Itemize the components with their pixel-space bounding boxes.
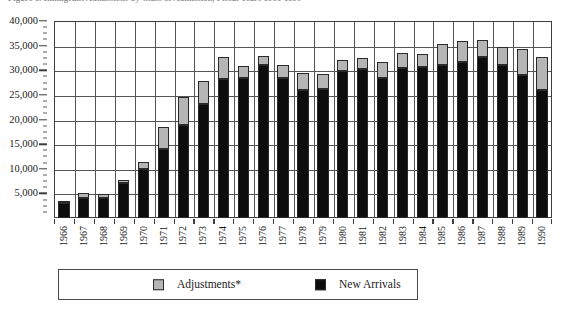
- gridline-vertical: [533, 22, 534, 217]
- x-axis-tick: [532, 219, 533, 224]
- x-axis-tick-label: 1982: [378, 226, 388, 246]
- gridline-vertical: [214, 22, 215, 217]
- gridline-vertical: [115, 22, 116, 217]
- y-axis-minor-tick: [43, 27, 47, 28]
- gridline-vertical: [294, 22, 295, 217]
- y-axis-minor-tick: [43, 156, 47, 157]
- y-axis-minor-tick: [43, 150, 47, 151]
- y-axis-minor-tick: [43, 181, 47, 182]
- gridline-horizontal: [55, 145, 551, 146]
- gridline-vertical: [334, 22, 335, 217]
- x-axis-tick-label: 1980: [338, 226, 348, 246]
- y-axis-minor-tick: [43, 64, 47, 65]
- x-axis-tick-label: 1972: [178, 226, 188, 246]
- gridline-vertical: [433, 22, 434, 217]
- y-axis-minor-tick: [43, 51, 47, 52]
- y-axis-minor-tick: [43, 131, 47, 132]
- x-axis-tick-label: 1977: [278, 226, 288, 246]
- x-axis-tick-label: 1971: [159, 226, 169, 246]
- gridline-horizontal: [55, 47, 551, 48]
- y-axis-minor-tick: [43, 88, 47, 89]
- y-axis-tick: [39, 143, 47, 144]
- x-axis-tick-label: 1990: [537, 226, 547, 246]
- x-axis-tick-label: 1989: [517, 226, 527, 246]
- y-axis-minor-tick: [43, 57, 47, 58]
- x-axis-tick-label: 1968: [99, 226, 109, 246]
- gridline-vertical: [374, 22, 375, 217]
- legend-swatch-icon: [315, 279, 326, 290]
- horizontal-gridlines: [55, 22, 551, 217]
- y-axis-minor-tick: [43, 76, 47, 77]
- gridline-vertical: [175, 22, 176, 217]
- x-axis-tick-label: 1988: [497, 226, 507, 246]
- gridline-vertical: [234, 22, 235, 217]
- y-axis-tick: [39, 20, 47, 21]
- x-axis-tick: [452, 219, 453, 224]
- y-axis-minor-tick: [43, 101, 47, 102]
- gridline-vertical: [453, 22, 454, 217]
- y-axis-tick: [39, 119, 47, 120]
- x-axis-tick-label: 1969: [119, 226, 129, 246]
- x-axis-tick: [193, 219, 194, 224]
- x-axis-tick: [512, 219, 513, 224]
- y-axis-tick-label: 5,000: [14, 188, 38, 199]
- x-axis-tick: [273, 219, 274, 224]
- gridline-vertical: [155, 22, 156, 217]
- chart-legend: Adjustments*New Arrivals: [58, 269, 418, 300]
- gridline-vertical: [314, 22, 315, 217]
- gridline-vertical: [394, 22, 395, 217]
- x-axis-tick: [233, 219, 234, 224]
- vertical-gridlines: [55, 22, 551, 217]
- y-axis: 5,00010,00015,00020,00025,00030,00035,00…: [0, 21, 47, 218]
- x-axis-tick: [114, 219, 115, 224]
- gridline-vertical: [414, 22, 415, 217]
- gridline-vertical: [135, 22, 136, 217]
- gridline-vertical: [354, 22, 355, 217]
- x-axis-tick-label: 1967: [79, 226, 89, 246]
- x-axis-tick: [293, 219, 294, 224]
- x-axis-tick-label: 1984: [418, 226, 428, 246]
- legend-label: Adjustments*: [177, 279, 241, 291]
- legend-swatch-icon: [153, 279, 164, 290]
- y-axis-minor-tick: [43, 125, 47, 126]
- gridline-horizontal: [55, 194, 551, 195]
- y-axis-minor-tick: [43, 33, 47, 34]
- gridline-vertical: [493, 22, 494, 217]
- y-axis-tick: [39, 94, 47, 95]
- y-axis-minor-tick: [43, 137, 47, 138]
- y-axis-tick-label: 15,000: [9, 139, 38, 150]
- y-axis-tick-label: 10,000: [9, 164, 38, 175]
- x-axis-tick-label: 1983: [398, 226, 408, 246]
- y-axis-minor-tick: [43, 113, 47, 114]
- y-axis-tick: [39, 70, 47, 71]
- y-axis-minor-tick: [43, 205, 47, 206]
- x-axis-tick-label: 1973: [198, 226, 208, 246]
- gridline-vertical: [274, 22, 275, 217]
- legend-entry: New Arrivals: [315, 279, 401, 291]
- gridline-horizontal: [55, 96, 551, 97]
- gridline-vertical: [194, 22, 195, 217]
- x-axis-tick-label: 1975: [238, 226, 248, 246]
- x-axis-tick: [54, 219, 55, 224]
- y-axis-minor-tick: [43, 187, 47, 188]
- y-axis-minor-tick: [43, 199, 47, 200]
- chart-title: Figure 1. Immigrant Admissions by Class …: [8, 0, 301, 3]
- y-axis-tick-label: 25,000: [9, 90, 38, 101]
- x-axis-tick: [551, 219, 552, 224]
- gridline-horizontal: [55, 121, 551, 122]
- y-axis-tick-label: 35,000: [9, 40, 38, 51]
- y-axis-tick: [39, 168, 47, 169]
- y-axis-minor-tick: [43, 39, 47, 40]
- x-axis-tick: [413, 219, 414, 224]
- x-axis-tick-label: 1981: [358, 226, 368, 246]
- y-axis-minor-tick: [43, 107, 47, 108]
- x-axis-tick-label: 1979: [318, 226, 328, 246]
- x-axis-tick-label: 1986: [457, 226, 467, 246]
- gridline-vertical: [513, 22, 514, 217]
- gridline-horizontal: [55, 71, 551, 72]
- x-axis-tick: [492, 219, 493, 224]
- x-axis-tick: [213, 219, 214, 224]
- y-axis-minor-tick: [43, 174, 47, 175]
- y-axis-minor-tick: [43, 82, 47, 83]
- y-axis-tick-label: 30,000: [9, 65, 38, 76]
